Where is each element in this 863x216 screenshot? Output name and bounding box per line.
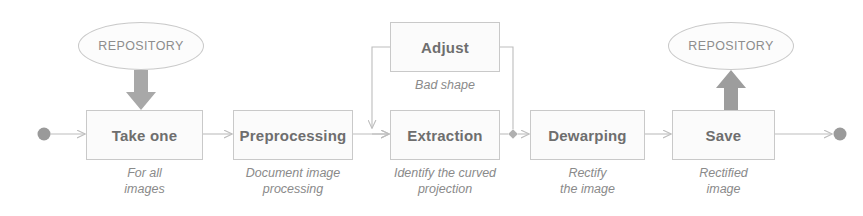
- node-dewarping[interactable]: Dewarping: [530, 110, 645, 160]
- node-preprocessing[interactable]: Preprocessing: [233, 110, 353, 160]
- node-take-one-label: Take one: [112, 127, 178, 144]
- end-node: [834, 128, 847, 141]
- repository-target-label: REPOSITORY: [688, 39, 774, 53]
- node-save[interactable]: Save: [672, 110, 775, 160]
- repository-target-node[interactable]: REPOSITORY: [668, 22, 794, 70]
- block-arrow-save-to-repository: [716, 70, 746, 110]
- caption-preprocessing: Document image processing: [228, 166, 358, 197]
- node-save-label: Save: [706, 127, 742, 144]
- node-extraction[interactable]: Extraction: [390, 110, 500, 160]
- repository-source-node[interactable]: REPOSITORY: [78, 22, 204, 70]
- node-extraction-label: Extraction: [407, 127, 482, 144]
- node-preprocessing-label: Preprocessing: [240, 127, 347, 144]
- flowchart-diagram: REPOSITORY REPOSITORY Adjust Bad shape T…: [0, 0, 863, 216]
- block-arrow-repository-to-take-one: [126, 70, 156, 110]
- caption-dewarping: Rectify the image: [527, 166, 648, 197]
- repository-source-label: REPOSITORY: [98, 39, 184, 53]
- node-adjust-label: Adjust: [421, 39, 469, 56]
- caption-take-one: For all images: [84, 166, 205, 197]
- decision-junction: [508, 129, 518, 139]
- node-adjust[interactable]: Adjust: [390, 22, 500, 72]
- caption-adjust: Bad shape: [385, 78, 505, 94]
- node-take-one[interactable]: Take one: [86, 110, 203, 160]
- node-dewarping-label: Dewarping: [548, 127, 626, 144]
- start-node: [38, 128, 51, 141]
- caption-save: Rectified image: [668, 166, 779, 197]
- caption-extraction: Identify the curved projection: [375, 166, 515, 197]
